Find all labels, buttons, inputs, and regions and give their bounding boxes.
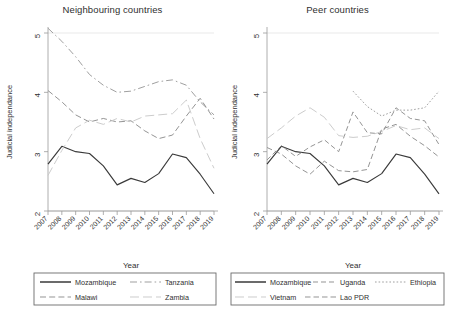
legend-label-uganda[interactable]: Uganda [340,278,365,287]
x-tick-label: 2010 [295,215,311,231]
y-tick-label: 3 [252,152,261,157]
y-tick-label: 4 [252,93,261,98]
plot-area-right: 2345Judicial independance200720082009201… [225,0,450,309]
x-tick-label: 2014 [352,215,368,231]
legend-label-tanzania[interactable]: Tanzania [165,278,194,287]
x-tick-label: 2012 [323,215,339,231]
legend-label-ethiopia[interactable]: Ethiopia [410,278,436,287]
x-tick-label: 2016 [381,215,397,231]
series-line-uganda [267,108,439,160]
x-tick-label: 2019 [424,215,440,231]
x-tick-label: 2008 [47,215,63,231]
x-tick-label: 2016 [157,215,173,231]
y-tick-label: 2 [252,211,261,216]
x-tick-label: 2010 [74,215,90,231]
x-tick-label: 2013 [116,215,132,231]
y-tick-label: 5 [33,33,42,38]
x-tick-label: 2009 [60,215,76,231]
x-tick-label: 2015 [143,215,159,231]
series-line-mozambique [267,146,439,193]
x-axis-label: Year [123,261,140,270]
series-line-lao-pdr [267,124,439,174]
x-tick-label: 2008 [266,215,282,231]
x-tick-label: 2014 [130,215,146,231]
series-line-zambia [48,100,214,175]
panel-neighbouring-countries: Neighbouring countries 2345Judicial inde… [0,0,225,309]
x-tick-label: 2013 [338,215,354,231]
chart-figure: Neighbouring countries 2345Judicial inde… [0,0,450,309]
panel-peer-countries: Peer countries 2345Judicial independance… [225,0,450,309]
series-line-malawi [48,91,214,139]
x-tick-label: 2012 [102,215,118,231]
x-tick-label: 2015 [366,215,382,231]
x-tick-label: 2011 [309,215,325,231]
y-tick-label: 4 [33,93,42,98]
x-tick-label: 2011 [88,215,104,231]
y-tick-label: 2 [33,211,42,216]
series-line-tanzania [48,28,214,115]
legend-label-malawi[interactable]: Malawi [75,293,98,302]
series-line-ethiopia [353,91,439,116]
x-tick-label: 2018 [409,215,425,231]
plot-area-left: 2345Judicial independance200720082009201… [0,0,225,309]
legend-label-zambia[interactable]: Zambia [165,293,189,302]
x-tick-label: 2019 [199,215,215,231]
x-tick-label: 2017 [171,215,187,231]
y-axis-label: Judicial independance [230,85,239,159]
y-tick-label: 5 [252,33,261,38]
legend-label-lao-pdr[interactable]: Lao PDR [340,293,369,302]
legend-label-mozambique[interactable]: Mozambique [270,278,311,287]
x-axis-label: Year [345,261,362,270]
series-line-mozambique [48,146,214,193]
y-axis-label: Judicial independance [5,85,14,159]
legend-label-mozambique[interactable]: Mozambique [75,278,116,287]
legend-label-vietnam[interactable]: Vietnam [270,293,296,302]
x-tick-label: 2017 [395,215,411,231]
y-tick-label: 3 [33,152,42,157]
x-tick-label: 2018 [185,215,201,231]
x-tick-label: 2009 [280,215,296,231]
